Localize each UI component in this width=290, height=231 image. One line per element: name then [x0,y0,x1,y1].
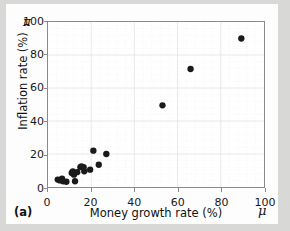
x-tick-mark [221,188,222,192]
data-point [238,35,244,41]
data-point [63,179,69,185]
x-tick-mark [178,188,179,192]
data-point [72,178,78,184]
panel-label: (a) [14,205,32,219]
data-point [159,102,165,108]
data-point [90,148,96,154]
scatter-points [48,22,264,187]
x-tick-mark [47,188,48,192]
x-axis-ticks: 020406080100 [47,192,265,206]
y-tick-label: 0 [4,183,44,194]
data-point [103,151,109,157]
x-axis-label: Money growth rate (%) [47,206,265,220]
x-tick-mark [91,188,92,192]
x-tick-mark [134,188,135,192]
x-tick-mark [265,188,266,192]
plot-area [47,21,265,188]
data-point [96,162,102,168]
figure-panel: π μ 020406080100 020406080100 Inflation … [0,0,290,231]
data-point [187,66,193,72]
y-axis-label: Inflation rate (%) [16,11,30,151]
data-point [87,167,93,173]
data-point [81,168,87,174]
